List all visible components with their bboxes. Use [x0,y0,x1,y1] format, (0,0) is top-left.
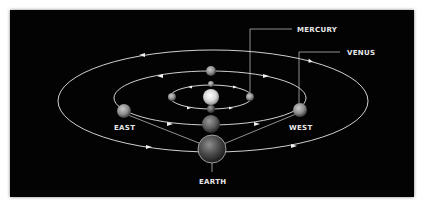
venus-top-icon [206,66,216,76]
sightline-west [221,114,296,145]
label-west: WEST [289,124,313,132]
venus-bottom-icon [202,115,220,133]
label-venus: VENUS [347,49,375,57]
label-earth: EARTH [199,178,226,186]
mercury-left-icon [168,93,176,101]
mercury-leader-line [250,29,292,93]
mercury-bottom-icon [207,105,215,113]
sun-icon [203,89,219,105]
arrow-icon [146,145,152,149]
label-east: EAST [114,124,135,132]
mercury-right-icon [246,93,254,101]
arrow-icon [233,86,237,89]
venus-east-icon [117,104,131,118]
venus-west-icon [293,103,307,117]
solar-system-diagram: MERCURY VENUS EAST WEST EARTH [0,0,421,204]
sightline-east [128,115,204,145]
mercury-top-icon [208,81,214,87]
orbit-direction-arrows [139,53,313,149]
arrow-icon [254,122,260,126]
label-mercury: MERCURY [297,26,338,34]
earth-icon [198,135,226,163]
arrow-icon [139,53,145,57]
arrow-icon [188,86,192,89]
arrow-icon [263,74,269,78]
